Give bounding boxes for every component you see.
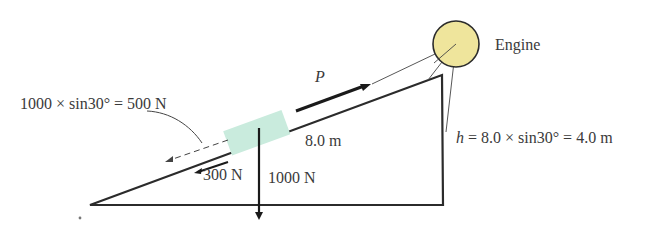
p-force-label: P xyxy=(315,69,325,85)
height-formula: = 8.0 × sin30° = 4.0 m xyxy=(464,129,613,146)
incline-length-label: 8.0 m xyxy=(305,133,341,149)
weight-arrow-head xyxy=(255,212,263,220)
block xyxy=(223,110,290,156)
p-arrow-head xyxy=(360,84,371,91)
incline-diagram xyxy=(0,0,668,238)
height-formula-label: h = 8.0 × sin30° = 4.0 m xyxy=(456,130,613,146)
engine-label: Engine xyxy=(495,37,540,53)
leader-line xyxy=(147,111,202,143)
weight-label: 1000 N xyxy=(268,170,316,186)
height-symbol: h xyxy=(456,129,464,146)
friction-label: 300 N xyxy=(203,167,243,183)
gravity-component-label: 1000 × sin30° = 500 N xyxy=(20,96,167,112)
